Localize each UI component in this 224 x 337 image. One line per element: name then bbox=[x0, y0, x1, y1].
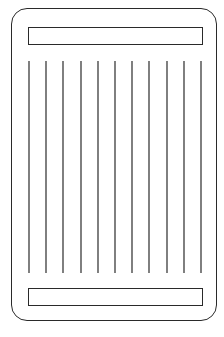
bottom-bar bbox=[28, 288, 203, 306]
vertical-lines bbox=[0, 0, 224, 337]
